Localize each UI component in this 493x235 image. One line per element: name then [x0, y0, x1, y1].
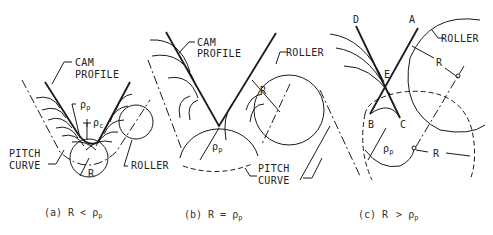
cam-roller-diagram: CAM PROFILE PITCH CURVE ROLLER ρp ρc R (…	[0, 0, 493, 235]
r-label-b: R	[260, 85, 267, 96]
point-a-label: A	[409, 14, 415, 25]
roller-label-c: ROLLER	[441, 33, 480, 44]
caption-a: (a) R<ρp	[44, 207, 102, 220]
roller-label-b: ROLLER	[286, 47, 325, 58]
point-b-label: B	[368, 119, 374, 130]
pitch-curve-b-dashed	[183, 164, 252, 172]
caption-b: (b) R=ρp	[184, 209, 242, 222]
pitch-line-b-left	[148, 60, 182, 150]
r-bottom-label-c: R	[433, 148, 440, 159]
pitch-curve-leader-b2	[303, 158, 322, 178]
r-label-a: R	[88, 168, 95, 179]
rho-p-label-c: ρp	[383, 143, 394, 156]
rho-p-leader-a	[72, 104, 80, 138]
envelope-arcs-c	[330, 34, 390, 94]
rho-p-label-b: ρp	[212, 141, 223, 154]
center-point-upper-c	[456, 74, 460, 78]
rho-c-label-a: ρc	[93, 117, 104, 130]
point-c-label: C	[400, 119, 406, 130]
rho-p-label-a: ρp	[80, 99, 91, 112]
center-line-c	[414, 66, 464, 150]
panel-a: CAM PROFILE PITCH CURVE ROLLER ρp ρc R (…	[9, 57, 170, 220]
r-arrow-bottom-c	[416, 150, 428, 152]
cam-label-a: CAM	[75, 57, 94, 68]
pitch-curve-leader-a	[48, 150, 64, 164]
curve-label-a: CURVE	[9, 160, 41, 171]
curve-label-b: CURVE	[258, 175, 290, 186]
panel-c: D A E B C ROLLER R R ρp (c) R>ρp	[300, 14, 485, 222]
pitch-label-b: PITCH	[258, 163, 290, 174]
panel-b: CAM PROFILE ROLLER PITCH CURVE ρp R (b) …	[148, 32, 325, 222]
point-e-label: E	[384, 69, 390, 80]
cam-label-b: CAM	[197, 37, 216, 48]
r-arrow-top-c	[412, 46, 434, 58]
caption-c: (c) R>ρp	[358, 209, 418, 222]
profile-label-b: PROFILE	[197, 48, 241, 59]
pitch-label-a: PITCH	[9, 148, 41, 159]
profile-label-a: PROFILE	[75, 69, 119, 80]
cam-profile-leader-a	[52, 62, 72, 84]
roller-circle-a-right	[119, 105, 153, 139]
roller-label-a: ROLLER	[131, 160, 170, 171]
r-top-label-c: R	[436, 57, 443, 68]
point-d-label: D	[353, 14, 359, 25]
pitch-curve-leader-b	[245, 168, 257, 176]
